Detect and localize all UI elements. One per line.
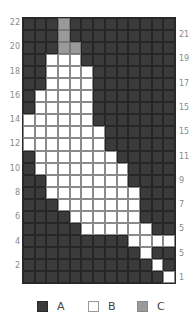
- grid-cell-a: [140, 126, 152, 138]
- grid-cell-b: [35, 114, 47, 126]
- grid-cell-a: [117, 102, 129, 114]
- grid-cell-b: [105, 199, 117, 211]
- grid-cell-a: [128, 271, 140, 283]
- grid-cell-a: [128, 54, 140, 66]
- grid-cell-a: [117, 247, 129, 259]
- grid-cell-a: [152, 271, 164, 283]
- grid-cell-a: [105, 18, 117, 30]
- grid-cell-a: [35, 175, 47, 187]
- grid-cell-b: [81, 66, 93, 78]
- grid-cell-b: [70, 138, 82, 150]
- grid-cell-a: [152, 126, 164, 138]
- grid-cell-b: [93, 175, 105, 187]
- grid-cell-a: [23, 271, 35, 283]
- grid-cell-a: [163, 90, 175, 102]
- grid-cell-b: [23, 126, 35, 138]
- grid-cell-b: [93, 199, 105, 211]
- grid-cell-a: [81, 235, 93, 247]
- grid-cell-a: [46, 30, 58, 42]
- grid-cell-a: [128, 138, 140, 150]
- grid-cell-a: [163, 30, 175, 42]
- grid-cell-a: [105, 138, 117, 150]
- grid-cell-a: [117, 30, 129, 42]
- grid-cell-a: [128, 151, 140, 163]
- grid-cell-a: [46, 271, 58, 283]
- grid-cell-a: [93, 18, 105, 30]
- grid-cell-a: [117, 151, 129, 163]
- grid-cell-b: [70, 78, 82, 90]
- grid-cell-a: [35, 66, 47, 78]
- grid-cell-a: [23, 30, 35, 42]
- grid-cell-a: [81, 259, 93, 271]
- grid-cell-a: [35, 259, 47, 271]
- grid-cell-a: [152, 114, 164, 126]
- grid-cell-b: [140, 223, 152, 235]
- grid-cell-a: [70, 271, 82, 283]
- grid-cell-a: [117, 138, 129, 150]
- grid-cell-b: [46, 102, 58, 114]
- grid-cell-a: [163, 259, 175, 271]
- grid-cell-b: [81, 199, 93, 211]
- grid-cell-a: [152, 30, 164, 42]
- grid-cell-a: [35, 30, 47, 42]
- grid-cell-a: [46, 211, 58, 223]
- grid-cell-b: [93, 187, 105, 199]
- grid-cell-a: [23, 247, 35, 259]
- legend-label-b: B: [108, 301, 116, 312]
- right-row-label: 5: [179, 224, 184, 234]
- grid-cell-b: [128, 199, 140, 211]
- grid-cell-b: [152, 259, 164, 271]
- grid-cell-a: [70, 247, 82, 259]
- grid-cell-a: [35, 211, 47, 223]
- grid-cell-b: [70, 151, 82, 163]
- grid-cell-a: [23, 235, 35, 247]
- grid-cell-a: [152, 223, 164, 235]
- grid-cell-a: [152, 90, 164, 102]
- grid-cell-a: [152, 102, 164, 114]
- grid-cell-b: [105, 151, 117, 163]
- grid-cell-a: [117, 42, 129, 54]
- grid-cell-a: [140, 259, 152, 271]
- grid-cell-a: [140, 42, 152, 54]
- grid-cell-c: [58, 30, 70, 42]
- legend: A B C: [0, 301, 196, 315]
- left-row-label: 4: [3, 237, 20, 247]
- grid-cell-b: [70, 163, 82, 175]
- grid-cell-a: [163, 66, 175, 78]
- grid-cell-a: [35, 199, 47, 211]
- grid-cell-b: [81, 90, 93, 102]
- grid-cell-a: [58, 211, 70, 223]
- grid-cell-a: [93, 271, 105, 283]
- grid-cell-b: [58, 90, 70, 102]
- grid-cell-a: [152, 42, 164, 54]
- grid-cell-a: [23, 211, 35, 223]
- grid-cell-a: [152, 199, 164, 211]
- grid-cell-a: [128, 163, 140, 175]
- grid-cell-a: [46, 235, 58, 247]
- grid-cell-a: [58, 259, 70, 271]
- right-row-label: 15: [179, 127, 189, 137]
- grid-cell-a: [93, 114, 105, 126]
- right-row-label: 11: [179, 152, 189, 162]
- grid-cell-b: [46, 126, 58, 138]
- grid-cell-b: [128, 187, 140, 199]
- grid-cell-b: [35, 138, 47, 150]
- legend-label-a: A: [57, 301, 65, 312]
- left-row-label: 22: [3, 18, 20, 28]
- grid-cell-b: [46, 138, 58, 150]
- grid-cell-b: [70, 54, 82, 66]
- grid-cell-a: [46, 42, 58, 54]
- grid-cell-a: [46, 18, 58, 30]
- grid-cell-a: [117, 18, 129, 30]
- grid-cell-b: [93, 163, 105, 175]
- grid-cell-a: [23, 223, 35, 235]
- grid-cell-a: [140, 175, 152, 187]
- grid-cell-a: [117, 271, 129, 283]
- grid-cell-a: [46, 199, 58, 211]
- left-row-label: 18: [3, 67, 20, 77]
- left-row-label: 10: [3, 164, 20, 174]
- grid-cell-b: [35, 163, 47, 175]
- right-row-label: 19: [179, 54, 189, 64]
- grid-cell-b: [46, 114, 58, 126]
- legend-item-a: A: [37, 301, 65, 312]
